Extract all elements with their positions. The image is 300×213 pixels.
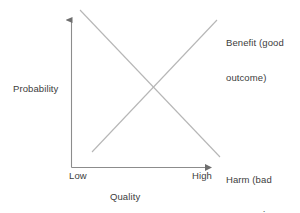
benefit-series-label: Benefit (good outcome) xyxy=(226,14,298,106)
benefit-line xyxy=(92,20,217,152)
x-tick-label-low: Low xyxy=(69,170,87,182)
x-tick-label-high: High xyxy=(192,170,212,182)
probability-quality-chart: Probability Quality Low High Benefit (go… xyxy=(0,0,300,212)
harm-series-label-line2: outcome) xyxy=(226,209,298,213)
benefit-series-label-line2: outcome) xyxy=(226,72,298,84)
benefit-series-label-line1: Benefit (good xyxy=(226,37,298,49)
y-axis-label: Probability xyxy=(13,83,58,95)
harm-series-label: Harm (bad outcome) xyxy=(226,151,298,212)
x-axis-label: Quality xyxy=(110,191,140,203)
harm-series-label-line1: Harm (bad xyxy=(226,174,298,186)
harm-line xyxy=(80,10,220,157)
